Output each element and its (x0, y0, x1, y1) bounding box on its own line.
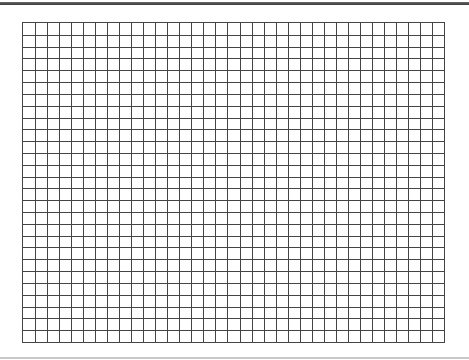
top-border-bar (0, 2, 469, 5)
grid-lines (23, 23, 446, 344)
graph-paper-grid (22, 22, 445, 343)
bottom-border-bar (0, 357, 469, 359)
